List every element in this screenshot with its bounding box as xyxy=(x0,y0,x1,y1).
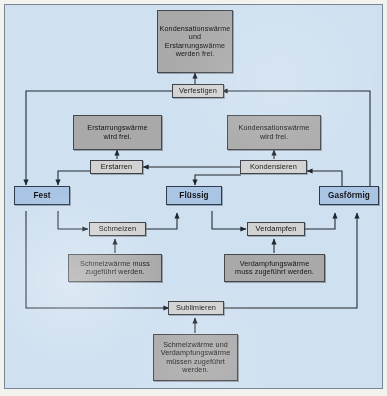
process-box-erstarren[interactable]: Erstarren xyxy=(90,160,143,174)
process-box-sublimieren-label: Sublimieren xyxy=(174,304,218,313)
heat-box-erstarrungswaerme: Erstarrungswärme wird frei. xyxy=(73,115,162,150)
edge-schmelzen-to-fluessig xyxy=(146,213,177,229)
edge-verdampfen-to-gasfoermig xyxy=(305,213,335,229)
heat-box-verdampfungswaerme: Verdampfungswärme muss zugeführt werden. xyxy=(224,254,325,282)
edge-gasfoermig-to-kondensieren xyxy=(307,171,342,187)
state-box-fluessig-label: Flüssig xyxy=(177,191,210,201)
heat-box-verdampfungswaerme-label: Verdampfungswärme muss zugeführt werden. xyxy=(233,260,316,277)
heat-box-erstarrungswaerme-label: Erstarrungswärme wird frei. xyxy=(85,124,149,141)
process-box-verfestigen[interactable]: Verfestigen xyxy=(172,84,224,98)
process-box-verdampfen[interactable]: Verdampfen xyxy=(247,222,305,236)
state-box-fest-label: Fest xyxy=(31,191,52,201)
process-box-verdampfen-label: Verdampfen xyxy=(254,225,299,234)
state-box-gasfoermig[interactable]: Gasförmig xyxy=(319,186,379,205)
process-box-kondensieren-label: Kondensieren xyxy=(248,163,299,172)
edge-kondensieren-to-fluessig xyxy=(195,175,241,185)
state-box-gasfoermig-label: Gasförmig xyxy=(326,191,372,201)
process-box-sublimieren[interactable]: Sublimieren xyxy=(168,301,224,315)
process-box-schmelzen-label: Schmelzen xyxy=(97,225,138,234)
state-box-fest[interactable]: Fest xyxy=(14,186,70,205)
edge-fluessig-to-verdampfen xyxy=(212,211,246,229)
heat-box-top-label: Kondensationswärme und Erstarrungswärme … xyxy=(158,25,233,59)
process-box-verfestigen-label: Verfestigen xyxy=(177,87,219,96)
state-box-fluessig[interactable]: Flüssig xyxy=(166,186,222,205)
process-box-kondensieren[interactable]: Kondensieren xyxy=(240,160,307,174)
heat-box-schmelzwaerme: Schmelzwärme muss zugeführt werden. xyxy=(68,254,162,282)
edge-erstarren-to-fest xyxy=(58,171,91,185)
heat-box-kondensationswaerme-label: Kondensationswärme wird frei. xyxy=(237,124,312,141)
diagram-canvas: Kondensationswärme und Erstarrungswärme … xyxy=(4,4,383,389)
process-box-erstarren-label: Erstarren xyxy=(99,163,134,172)
heat-box-schmelzwaerme-label: Schmelzwärme muss zugeführt werden. xyxy=(78,260,152,277)
heat-box-top: Kondensationswärme und Erstarrungswärme … xyxy=(157,10,233,73)
heat-box-kondensationswaerme: Kondensationswärme wird frei. xyxy=(227,115,321,150)
process-box-schmelzen[interactable]: Schmelzen xyxy=(89,222,146,236)
edge-fest-to-schmelzen xyxy=(58,211,88,229)
heat-box-bottom: Schmelzwärme und Verdampfungswärme müsse… xyxy=(153,334,238,381)
heat-box-bottom-label: Schmelzwärme und Verdampfungswärme müsse… xyxy=(159,341,233,375)
state-change-diagram-page: Kondensationswärme und Erstarrungswärme … xyxy=(0,0,387,396)
